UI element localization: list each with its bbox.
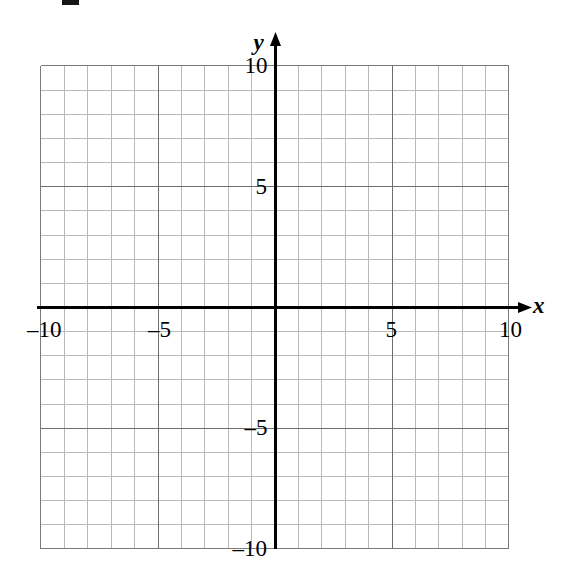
axes-lines <box>37 32 533 549</box>
y-tick-label-neg10: –10 <box>233 537 268 560</box>
x-tick-label-neg5: –5 <box>148 318 171 341</box>
y-tick-label-10: 10 <box>245 54 268 77</box>
x-axis-arrowhead <box>518 302 532 313</box>
y-axis-label: y <box>254 31 264 54</box>
coordinate-grid-figure: 10 5 –5 –10 –10 –5 5 10 x y <box>0 0 565 580</box>
y-tick-label-5: 5 <box>256 175 268 198</box>
x-tick-label-10: 10 <box>499 318 522 341</box>
x-tick-label-neg10: –10 <box>27 318 62 341</box>
x-tick-label-5: 5 <box>386 318 398 341</box>
x-axis-label: x <box>533 294 545 317</box>
y-tick-label-neg5: –5 <box>245 416 268 439</box>
coordinate-plane-svg <box>0 0 565 580</box>
scan-artifact-mark <box>62 0 79 5</box>
y-axis-arrowhead <box>270 32 281 46</box>
